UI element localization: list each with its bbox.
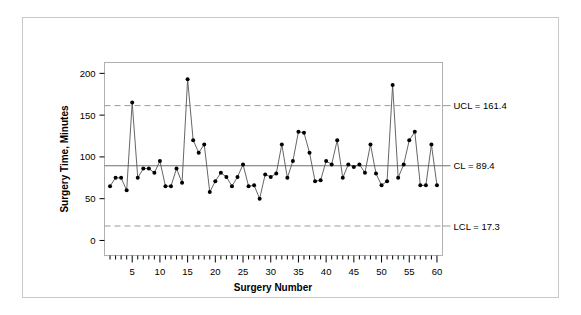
data-point bbox=[175, 167, 179, 171]
x-tick-label: 15 bbox=[182, 266, 193, 277]
data-point bbox=[274, 172, 278, 176]
data-point bbox=[180, 181, 184, 185]
control-chart: 050100150200 51015202530354045505560 UCL… bbox=[0, 0, 581, 315]
y-tick-label: 0 bbox=[90, 235, 95, 246]
data-point bbox=[241, 162, 245, 166]
data-point bbox=[407, 138, 411, 142]
data-point bbox=[341, 176, 345, 180]
data-point bbox=[346, 162, 350, 166]
data-point bbox=[302, 131, 306, 135]
y-tick-label: 50 bbox=[85, 193, 96, 204]
x-tick-label: 10 bbox=[155, 266, 166, 277]
x-tick-label: 50 bbox=[376, 266, 387, 277]
data-point bbox=[208, 190, 212, 194]
data-point bbox=[313, 179, 317, 183]
data-point bbox=[380, 183, 384, 187]
data-point bbox=[158, 159, 162, 163]
data-point bbox=[163, 184, 167, 188]
data-point bbox=[391, 83, 395, 87]
y-axis-ticks: 050100150200 bbox=[80, 68, 105, 246]
data-point bbox=[335, 138, 339, 142]
data-point bbox=[363, 171, 367, 175]
x-tick-label: 30 bbox=[265, 266, 276, 277]
x-tick-label: 40 bbox=[321, 266, 332, 277]
data-point bbox=[385, 179, 389, 183]
data-point bbox=[418, 183, 422, 187]
data-point bbox=[413, 130, 417, 134]
y-tick-label: 200 bbox=[80, 68, 96, 79]
data-point bbox=[119, 176, 123, 180]
data-point bbox=[191, 138, 195, 142]
data-point bbox=[213, 179, 217, 183]
data-point bbox=[108, 184, 112, 188]
data-point bbox=[269, 175, 273, 179]
data-point bbox=[235, 175, 239, 179]
y-axis-title: Surgery Time, Minutes bbox=[59, 105, 70, 213]
x-tick-label: 60 bbox=[432, 266, 443, 277]
data-point bbox=[429, 142, 433, 146]
x-tick-label: 45 bbox=[349, 266, 360, 277]
cl-label: CL = 89.4 bbox=[454, 160, 495, 171]
chart-canvas: 050100150200 51015202530354045505560 UCL… bbox=[0, 0, 581, 315]
data-point bbox=[147, 167, 151, 171]
x-axis-ticks: 51015202530354045505560 bbox=[110, 256, 442, 277]
x-tick-label: 25 bbox=[238, 266, 249, 277]
y-tick-label: 100 bbox=[80, 151, 96, 162]
data-point bbox=[141, 167, 145, 171]
data-point bbox=[357, 162, 361, 166]
data-point bbox=[169, 184, 173, 188]
data-point bbox=[402, 162, 406, 166]
lcl-label: LCL = 17.3 bbox=[454, 221, 500, 232]
data-point bbox=[224, 175, 228, 179]
data-point bbox=[136, 176, 140, 180]
data-point bbox=[197, 151, 201, 155]
data-point bbox=[263, 172, 267, 176]
screenshot-root: 050100150200 51015202530354045505560 UCL… bbox=[0, 0, 581, 315]
data-point bbox=[324, 159, 328, 163]
plot-frame bbox=[105, 63, 443, 256]
ucl-label: UCL = 161.4 bbox=[454, 100, 507, 111]
x-tick-label: 55 bbox=[404, 266, 415, 277]
data-point bbox=[308, 151, 312, 155]
y-tick-label: 150 bbox=[80, 110, 96, 121]
data-point bbox=[285, 176, 289, 180]
data-point bbox=[330, 162, 334, 166]
data-point bbox=[219, 171, 223, 175]
data-point bbox=[374, 172, 378, 176]
data-point bbox=[435, 183, 439, 187]
data-point bbox=[291, 159, 295, 163]
data-point bbox=[247, 184, 251, 188]
control-limit-lines bbox=[105, 106, 443, 226]
x-tick-label: 20 bbox=[210, 266, 221, 277]
x-tick-label: 5 bbox=[130, 266, 135, 277]
control-limit-labels: UCL = 161.4CL = 89.4LCL = 17.3 bbox=[443, 100, 507, 231]
data-point bbox=[202, 142, 206, 146]
data-point bbox=[114, 176, 118, 180]
data-point bbox=[186, 77, 190, 81]
data-point bbox=[258, 197, 262, 201]
data-point bbox=[252, 183, 256, 187]
data-point bbox=[296, 130, 300, 134]
data-point bbox=[125, 188, 129, 192]
data-point bbox=[130, 101, 134, 105]
data-point bbox=[352, 165, 356, 169]
data-point bbox=[424, 183, 428, 187]
data-point bbox=[280, 142, 284, 146]
data-point bbox=[396, 176, 400, 180]
data-point bbox=[319, 178, 323, 182]
x-axis-title: Surgery Number bbox=[234, 282, 312, 293]
data-point bbox=[368, 142, 372, 146]
data-point bbox=[230, 184, 234, 188]
x-tick-label: 35 bbox=[293, 266, 304, 277]
data-point bbox=[152, 171, 156, 175]
